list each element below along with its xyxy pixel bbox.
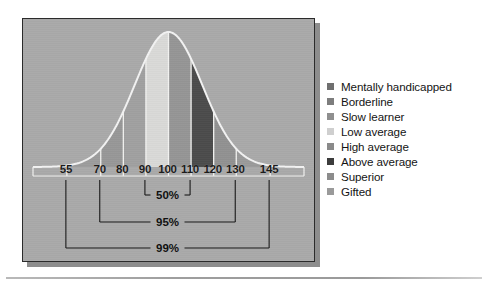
curve-band xyxy=(123,59,146,167)
x-axis-tick-label: 110 xyxy=(181,163,199,175)
legend-item-label: Slow learner xyxy=(341,109,404,124)
legend-item-label: Mentally handicapped xyxy=(341,79,452,94)
legend-item: Mentally handicapped xyxy=(327,79,485,94)
legend-item: Superior xyxy=(327,169,485,184)
legend-swatch-icon xyxy=(327,83,334,90)
legend-item-label: High average xyxy=(341,139,409,154)
bottom-horizontal-rule xyxy=(6,277,482,279)
x-axis-tick-label: 80 xyxy=(116,163,128,175)
x-axis-tick-label: 120 xyxy=(203,163,222,175)
figure-root: 55708090100110120130145 50%95%99% Mental… xyxy=(0,0,488,290)
x-axis-tick-label: 55 xyxy=(60,163,72,175)
percentage-brackets: 50%95%99% xyxy=(22,178,315,258)
legend-item-label: Above average xyxy=(341,154,418,169)
x-axis-tick-label: 70 xyxy=(94,163,106,175)
legend-item-label: Gifted xyxy=(341,184,371,199)
bracket-percentage-label: 95% xyxy=(154,216,181,228)
legend-item: Slow learner xyxy=(327,109,485,124)
legend-swatch-icon xyxy=(327,98,334,105)
legend-item-label: Superior xyxy=(341,169,384,184)
legend-item: High average xyxy=(327,139,485,154)
x-axis-tick-label: 100 xyxy=(158,163,177,175)
legend-swatch-icon xyxy=(327,128,334,135)
legend-swatch-icon xyxy=(327,173,334,180)
x-axis-tick-label: 90 xyxy=(139,163,151,175)
legend-item-label: Borderline xyxy=(341,94,393,109)
x-axis-tick-label: 130 xyxy=(226,163,245,175)
legend-swatch-icon xyxy=(327,113,334,120)
x-axis-tick-labels: 55708090100110120130145 xyxy=(22,163,315,179)
legend-item: Gifted xyxy=(327,184,485,199)
legend-item: Above average xyxy=(327,154,485,169)
curve-band xyxy=(191,59,214,167)
legend-swatch-icon xyxy=(327,188,334,195)
legend-item-label: Low average xyxy=(341,124,406,139)
bracket-percentage-label: 99% xyxy=(154,242,181,254)
legend-item: Low average xyxy=(327,124,485,139)
legend-swatch-icon xyxy=(327,158,334,165)
legend-swatch-icon xyxy=(327,143,334,150)
legend: Mentally handicappedBorderlineSlow learn… xyxy=(327,79,485,199)
legend-item: Borderline xyxy=(327,94,485,109)
bracket-percentage-label: 50% xyxy=(154,189,181,201)
x-axis-tick-label: 145 xyxy=(260,163,279,175)
